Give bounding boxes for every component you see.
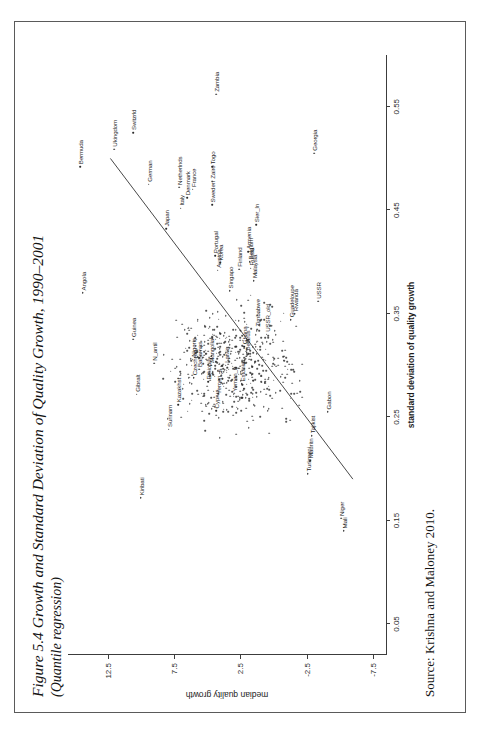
figure-title-block: Figure 5.4 Growth and Standard Deviation… — [28, 47, 66, 697]
x-tick-label: 0.55 — [392, 99, 401, 115]
x-tick — [386, 416, 390, 417]
x-tick — [386, 520, 390, 521]
x-tick — [386, 209, 390, 210]
x-tick — [386, 313, 390, 314]
x-tick-label: 0.05 — [392, 616, 401, 632]
x-tick-label: 0.25 — [392, 409, 401, 425]
figure-subtitle: (Quantile regression) — [48, 47, 66, 697]
x-axis-line — [386, 55, 387, 655]
rotated-page-content: Figure 5.4 Growth and Standard Deviation… — [14, 21, 466, 713]
x-tick-label: 0.35 — [392, 306, 401, 322]
x-tick-label: 0.45 — [392, 202, 401, 218]
x-axis-label: standard deviation of quality growth — [406, 282, 416, 428]
x-tick-label: 0.15 — [392, 513, 401, 529]
figure-title: Figure 5.4 Growth and Standard Deviation… — [29, 235, 46, 697]
regression-fit-line — [68, 55, 386, 655]
x-tick — [386, 106, 390, 107]
y-axis-label: median quality growth — [186, 690, 269, 700]
scanned-book-page: Figure 5.4 Growth and Standard Deviation… — [0, 0, 483, 731]
scatter-plot: 0.050.150.250.350.450.55 12.57.52.5-2.5-… — [68, 55, 386, 655]
x-tick — [386, 623, 390, 624]
source-note: Source: Krishna and Maloney 2010. — [422, 509, 438, 697]
